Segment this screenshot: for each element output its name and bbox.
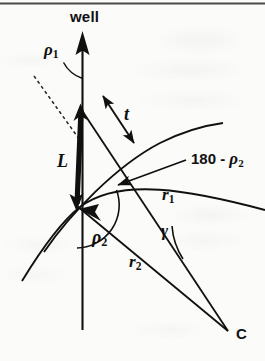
gamma-label: γ (161, 222, 168, 239)
rho1-angle-arc (64, 63, 83, 79)
rho2-subscript: 2 (101, 235, 107, 249)
r2-radius-line (77, 206, 228, 331)
rho1-symbol: ρ (44, 40, 53, 59)
rho2-symbol: ρ (92, 227, 101, 247)
thickness-label: t (124, 105, 129, 123)
r1-subscript: 1 (169, 193, 175, 206)
supplement-angle-label: 180 - ρ2 (191, 150, 244, 169)
well-label: well (70, 9, 99, 24)
supplement-subscript: 2 (238, 157, 244, 169)
dip-reference-dashed-line (34, 76, 82, 143)
r1-symbol: r (162, 185, 169, 204)
diagram-page: well ρ1 t L 180 - ρ2 r1 ρ2 γ r2 C (0, 0, 265, 361)
supplement-prefix: 180 - (191, 150, 229, 167)
r2-symbol: r (129, 252, 136, 271)
rho1-label: ρ1 (44, 41, 59, 61)
supplement-rho-symbol: ρ (229, 149, 238, 168)
well-geometry-figure (0, 0, 265, 361)
r1-radius-line (81, 109, 228, 331)
L-thick-segment (77, 110, 81, 204)
r1-label: r1 (162, 186, 174, 206)
r2-subscript: 2 (136, 260, 142, 273)
rho1-subscript: 1 (53, 48, 59, 61)
rho2-label: ρ2 (92, 228, 107, 249)
thickness-measure-arrow (103, 96, 134, 143)
r2-label: r2 (129, 253, 141, 273)
center-point-label: C (236, 326, 247, 341)
length-label: L (57, 152, 68, 170)
